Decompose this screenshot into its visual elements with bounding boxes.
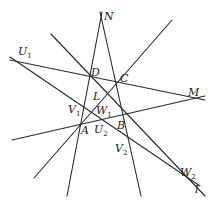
point-label-subscript: 2 [123,149,127,157]
point-label-subscript: 1 [76,110,80,118]
point-label-V1: V1 [68,103,80,118]
point-label-V2: V2 [115,142,127,157]
point-label-N: N [103,10,114,23]
point-label-M: M [187,86,200,99]
diagram-lines [10,12,205,196]
point-label-subscript: 2 [191,173,195,181]
point-label-L: L [92,90,100,103]
point-label-subscript: 1 [27,52,31,60]
point-label-B: B [116,119,125,132]
point-label-subscript: 2 [103,130,107,138]
point-label-W2: W2 [180,166,196,181]
point-label-subscript: 1 [107,111,111,119]
line-AC [34,20,172,178]
point-label-U1: U1 [18,45,32,60]
point-label-W1: W1 [96,104,112,119]
point-label-A: A [80,124,89,137]
geometry-diagram: NU1DCMLV1W1AU2BV2W2l [0,0,215,207]
point-label-l: l [195,183,199,196]
point-label-D: D [90,66,100,79]
point-label-U2: U2 [94,123,108,138]
point-label-C: C [120,72,129,85]
line-l [10,57,200,186]
